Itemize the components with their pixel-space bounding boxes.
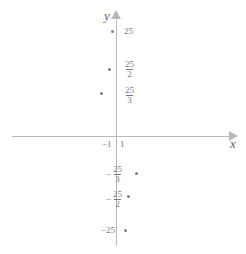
fraction-25-over-3: 25 3	[112, 165, 123, 185]
x-axis-line	[12, 136, 230, 137]
x-tick-label-one: 1	[120, 140, 125, 149]
x-axis-label: x	[230, 136, 236, 152]
y-axis-line	[116, 18, 117, 246]
negative-fraction-25-over-3: − 25 3	[106, 165, 123, 185]
fraction-denominator: 3	[114, 174, 121, 184]
y-tick-label-negative-25-over-3: − 25 3	[106, 165, 123, 185]
x-tick-label-negative-one: −1	[102, 140, 112, 149]
data-point	[135, 172, 138, 175]
scatter-plot: y x 25 25 2 25 3 −1 1 − 25 3	[0, 0, 246, 254]
data-point	[100, 92, 103, 95]
fraction-denominator: 3	[126, 95, 133, 105]
fraction-numerator: 25	[124, 86, 135, 95]
fraction-denominator: 2	[126, 69, 133, 79]
negative-fraction-25-over-2: − 25 2	[106, 190, 123, 210]
y-tick-label-negative-25: −25	[101, 226, 115, 235]
y-tick-label-negative-25-over-2: − 25 2	[106, 190, 123, 210]
data-point	[124, 229, 127, 232]
fraction-denominator: 2	[114, 199, 121, 209]
x-tick-text: 1	[120, 139, 125, 149]
fraction-numerator: 25	[112, 190, 123, 199]
fraction-numerator: 25	[112, 165, 123, 174]
y-axis-label: y	[104, 8, 110, 24]
data-point	[127, 195, 130, 198]
fraction-numerator: 25	[124, 60, 135, 69]
y-tick-label-25: 25	[124, 27, 133, 36]
y-tick-text: −25	[101, 225, 115, 235]
data-point	[111, 30, 114, 33]
fraction-25-over-2: 25 2	[112, 190, 123, 210]
x-tick-text: −1	[102, 139, 112, 149]
y-tick-label-25-over-2: 25 2	[124, 60, 135, 80]
y-axis-arrowhead-icon	[111, 10, 121, 19]
fraction-25-over-2: 25 2	[124, 60, 135, 80]
y-tick-label-25-over-3: 25 3	[124, 86, 135, 106]
data-point	[108, 68, 111, 71]
y-tick-text: 25	[124, 26, 133, 36]
fraction-25-over-3: 25 3	[124, 86, 135, 106]
